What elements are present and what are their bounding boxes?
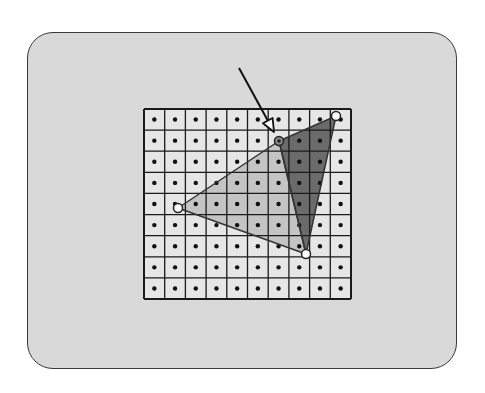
bottom-vertex-marker xyxy=(302,250,311,259)
pixel-sample-dot xyxy=(214,138,218,142)
pixel-sample-dot xyxy=(173,244,177,248)
pixel-sample-dot xyxy=(297,138,301,142)
shared-top-vertex-center xyxy=(277,139,281,143)
pixel-sample-dot xyxy=(214,286,218,290)
pixel-sample-dot xyxy=(318,265,322,269)
pixel-sample-dot xyxy=(256,160,260,164)
pixel-sample-dot xyxy=(256,117,260,121)
pixel-sample-dot xyxy=(256,202,260,206)
pixel-sample-dot xyxy=(214,223,218,227)
pixel-sample-dot xyxy=(152,138,156,142)
pixel-sample-dot xyxy=(276,265,280,269)
top-right-vertex-marker xyxy=(332,112,341,121)
pixel-sample-dot xyxy=(338,160,342,164)
pixel-sample-dot xyxy=(318,202,322,206)
pixel-sample-dot xyxy=(235,223,239,227)
pixel-sample-dot xyxy=(235,265,239,269)
pixel-sample-dot xyxy=(297,160,301,164)
pixel-sample-dot xyxy=(214,160,218,164)
pixel-sample-dot xyxy=(256,223,260,227)
pixel-sample-dot xyxy=(152,117,156,121)
pixel-sample-dot xyxy=(152,286,156,290)
pixel-sample-dot xyxy=(194,117,198,121)
pixel-sample-dot xyxy=(194,265,198,269)
pixel-sample-dot xyxy=(173,223,177,227)
pixel-sample-dot xyxy=(214,202,218,206)
pixel-sample-dot xyxy=(235,181,239,185)
pixel-sample-dot xyxy=(256,138,260,142)
pixel-sample-dot xyxy=(194,138,198,142)
pixel-sample-dot xyxy=(318,138,322,142)
pixel-sample-dot xyxy=(297,286,301,290)
pixel-sample-dot xyxy=(152,265,156,269)
pixel-sample-dot xyxy=(256,181,260,185)
pixel-sample-dot xyxy=(235,138,239,142)
pixel-sample-dot xyxy=(173,117,177,121)
pixel-sample-dot xyxy=(297,265,301,269)
pixel-sample-dot xyxy=(235,286,239,290)
pixel-sample-dot xyxy=(194,286,198,290)
pixel-sample-dot xyxy=(318,286,322,290)
pixel-sample-dot xyxy=(338,223,342,227)
pixel-sample-dot xyxy=(214,265,218,269)
pixel-sample-dot xyxy=(276,286,280,290)
pixel-sample-dot xyxy=(256,265,260,269)
pixel-sample-dot xyxy=(318,244,322,248)
pixel-sample-dot xyxy=(194,181,198,185)
pixel-sample-dot xyxy=(338,286,342,290)
pixel-sample-dot xyxy=(152,223,156,227)
rasterization-diagram xyxy=(0,0,485,393)
pixel-sample-dot xyxy=(214,117,218,121)
pixel-sample-dot xyxy=(297,244,301,248)
pixel-sample-dot xyxy=(235,160,239,164)
pixel-sample-dot xyxy=(194,202,198,206)
pixel-sample-dot xyxy=(276,181,280,185)
pixel-sample-dot xyxy=(194,244,198,248)
pixel-sample-dot xyxy=(235,117,239,121)
pixel-sample-dot xyxy=(338,138,342,142)
pixel-sample-dot xyxy=(194,160,198,164)
pixel-sample-dot xyxy=(152,244,156,248)
pixel-sample-dot xyxy=(338,181,342,185)
left-vertex-marker xyxy=(174,204,183,213)
pixel-sample-dot xyxy=(194,223,198,227)
pixel-sample-dot xyxy=(318,223,322,227)
pixel-sample-dot xyxy=(276,202,280,206)
pixel-sample-dot xyxy=(276,117,280,121)
pixel-sample-dot xyxy=(173,181,177,185)
pixel-sample-dot xyxy=(338,244,342,248)
pixel-sample-dot xyxy=(297,117,301,121)
pixel-sample-dot xyxy=(318,160,322,164)
pixel-sample-dot xyxy=(276,223,280,227)
pixel-sample-dot xyxy=(256,286,260,290)
pixel-sample-dot xyxy=(276,160,280,164)
pixel-sample-dot xyxy=(173,286,177,290)
pixel-sample-dot xyxy=(318,117,322,121)
pixel-sample-dot xyxy=(338,202,342,206)
pixel-sample-dot xyxy=(152,181,156,185)
pixel-sample-dot xyxy=(173,160,177,164)
pixel-sample-dot xyxy=(152,160,156,164)
pixel-sample-dot xyxy=(297,181,301,185)
pixel-sample-dot xyxy=(173,138,177,142)
diagram-canvas xyxy=(0,0,485,393)
pixel-sample-dot xyxy=(214,244,218,248)
pixel-sample-dot xyxy=(173,265,177,269)
pixel-sample-dot xyxy=(297,202,301,206)
pixel-sample-dot xyxy=(235,244,239,248)
pixel-sample-dot xyxy=(256,244,260,248)
pixel-sample-dot xyxy=(152,202,156,206)
pixel-sample-dot xyxy=(338,265,342,269)
pixel-sample-dot xyxy=(235,202,239,206)
